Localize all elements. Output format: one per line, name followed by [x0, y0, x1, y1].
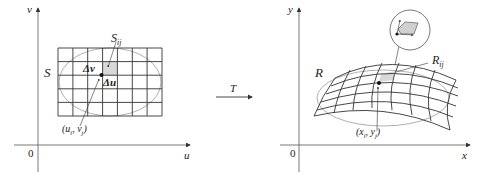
- subrectangle-sij-shade: [102, 62, 117, 76]
- rij-label: Rij: [432, 54, 444, 69]
- rij-pointer: [396, 63, 428, 72]
- origin-label-right: 0: [290, 148, 296, 159]
- region-r-label: R: [315, 66, 323, 79]
- x-axis-label: x: [462, 150, 467, 161]
- sample-point-xy: [377, 81, 381, 85]
- magnifier-stem: [395, 46, 399, 65]
- point-pointer-xy: [377, 87, 378, 131]
- delta-v-label: Δv: [83, 63, 95, 74]
- y-axis-label: y: [288, 4, 293, 15]
- point-uv-label: (ui, vj): [62, 124, 87, 137]
- uv-axes: [14, 8, 190, 172]
- transform-label: T: [230, 83, 236, 94]
- origin-label-left: 0: [28, 148, 34, 159]
- point-xy-label: (xi, yj): [356, 127, 380, 140]
- v-axis-label: v: [27, 4, 32, 15]
- sij-label: Sij: [111, 32, 121, 47]
- delta-u-label: Δu: [103, 77, 116, 88]
- region-s-label: S: [44, 66, 51, 79]
- transformation-diagram: [0, 0, 484, 174]
- magnified-inset: [390, 10, 430, 50]
- u-axis-label: u: [184, 150, 190, 161]
